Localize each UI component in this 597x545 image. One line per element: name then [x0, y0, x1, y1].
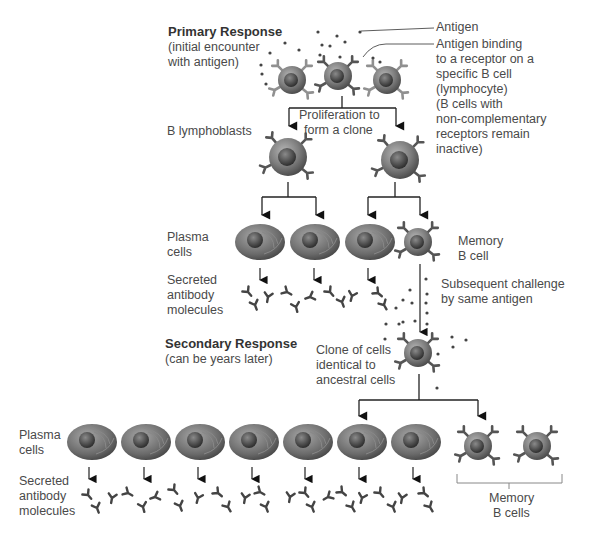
- lymphoblast-2: [372, 135, 425, 181]
- plasma-label-2: cells: [167, 245, 192, 260]
- lymphoblasts-label: B lymphoblasts: [167, 124, 252, 139]
- plasma-cell: [290, 224, 340, 260]
- binding-label-8: inactive): [436, 142, 483, 157]
- b-cell-inactive-2: [364, 60, 408, 98]
- plasma2-label-2: cells: [19, 443, 44, 458]
- binding-label-1: Antigen binding: [436, 37, 522, 52]
- primary-response-subtitle-2: with antigen): [168, 55, 239, 70]
- memory-label-1: Memory: [458, 234, 503, 249]
- binding-label-5: (B cells with: [436, 97, 503, 112]
- antigen-label: Antigen: [436, 20, 478, 35]
- secreted2-label-1: Secreted: [19, 474, 69, 489]
- primary-response-title: Primary Response: [168, 24, 282, 39]
- secreted-label-1: Secreted: [167, 273, 217, 288]
- plasma-cell: [345, 224, 395, 260]
- secondary-response-subtitle: (can be years later): [165, 352, 273, 367]
- lymphoblast-1: [260, 132, 313, 178]
- secreted-label-3: molecules: [167, 303, 223, 318]
- binding-label-2: to a receptor on a: [436, 52, 534, 67]
- binding-label-4: (lymphocyte): [436, 82, 508, 97]
- b-cell-inactive-1: [269, 60, 313, 98]
- antibody-molecules-secondary: [82, 484, 436, 514]
- memory-label-2: B cell: [458, 249, 489, 264]
- proliferation-label-1: Proliferation to: [299, 108, 380, 123]
- memory-b-cell-3: [514, 426, 558, 464]
- secreted2-label-2: antibody: [19, 489, 66, 504]
- challenge-label-2: by same antigen: [441, 292, 533, 307]
- challenge-label-1: Subsequent challenge: [441, 277, 565, 292]
- secreted2-label-3: molecules: [19, 504, 75, 519]
- secreted-label-2: antibody: [167, 288, 214, 303]
- binding-label-6: non-complementary: [436, 112, 546, 127]
- clone-b-cell: [395, 333, 439, 371]
- plasma2-label-1: Plasma: [19, 428, 61, 443]
- antibody-molecules-primary: [242, 286, 390, 313]
- binding-label-3: specific B cell: [436, 67, 512, 82]
- memory-b-cell-2: [455, 426, 499, 464]
- plasma-label-1: Plasma: [167, 230, 209, 245]
- memory-bracket: [457, 474, 562, 489]
- binding-label-7: receptors remain: [436, 127, 530, 142]
- b-cell-active: [315, 56, 359, 94]
- primary-response-subtitle-1: (initial encounter: [168, 40, 260, 55]
- plasma-cells-secondary: [67, 424, 441, 460]
- memory2-label-1: Memory: [489, 491, 534, 506]
- clone-label-2: identical to: [316, 358, 376, 373]
- plasma-cell: [235, 224, 285, 260]
- clone-label-3: ancestral cells: [316, 373, 395, 388]
- proliferation-label-2: form a clone: [304, 123, 373, 138]
- memory2-label-2: B cells: [493, 506, 530, 521]
- clone-label-1: Clone of cells: [316, 343, 391, 358]
- memory-b-cell: [395, 222, 439, 260]
- secondary-response-title: Secondary Response: [165, 336, 297, 351]
